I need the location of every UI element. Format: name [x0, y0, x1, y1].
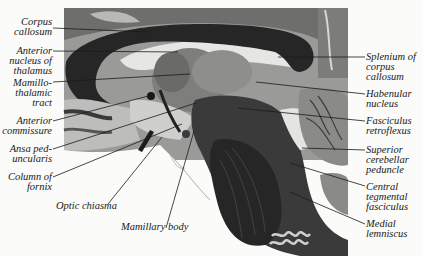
label-anterior-nucleus-of-thalamus: Anterior nucleus of thalamus — [9, 46, 52, 76]
label-central-tegmental-fasciculus: Central tegmental fasciculus — [366, 182, 408, 212]
label-fasciculus-retroflexus: Fasciculus retroflexus — [366, 116, 412, 136]
brain-section-illustration — [0, 0, 423, 256]
label-anterior-commissure: Anterior commissure — [2, 116, 52, 136]
label-splenium-of-corpus-callosum: Splenium of corpus callosum — [366, 52, 416, 82]
brain-section-figure: Corpus callosum Anterior nucleus of thal… — [0, 0, 423, 256]
label-optic-chiasma: Optic chiasma — [56, 201, 117, 211]
label-mamillothalamic-tract: Mamillo- thalamic tract — [13, 78, 52, 108]
label-column-of-fornix: Column of fornix — [8, 172, 52, 192]
label-corpus-callosum: Corpus callosum — [14, 17, 52, 37]
label-ansa-peduncularis: Ansa ped- uncularis — [10, 144, 52, 164]
label-habenular-nucleus: Habenular nucleus — [366, 89, 412, 109]
label-superior-cerebellar-peduncle: Superior cerebellar peduncle — [366, 145, 409, 175]
label-medial-lemniscus: Medial lemniscus — [366, 219, 407, 239]
label-mamillary-body: Mamillary body — [121, 222, 188, 232]
